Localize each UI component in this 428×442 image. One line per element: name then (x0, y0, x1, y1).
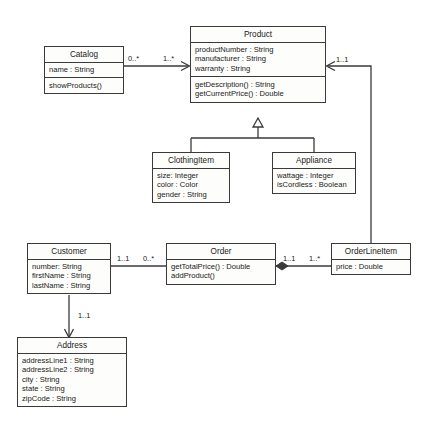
operations-compartment-catalog: showProducts() (45, 78, 123, 93)
attribute: price : Double (336, 262, 406, 271)
class-name-customer: Customer (28, 244, 110, 260)
class-name-orderlineitem: OrderLineItem (332, 244, 410, 260)
operation: showProducts() (49, 81, 119, 90)
class-box-clothingitem[interactable]: ClothingItem size: Integer color : Color… (152, 152, 230, 203)
attribute: city : String (22, 375, 122, 384)
multiplicity-label-order-orderlineitem-order-end: 1..1 (283, 255, 295, 263)
attribute: name : String (49, 65, 119, 74)
class-box-catalog[interactable]: Catalog name : String showProducts() (44, 46, 124, 94)
operation: addProduct() (171, 271, 271, 280)
class-box-appliance[interactable]: Appliance wattage : Integer isCordless :… (272, 152, 356, 194)
class-name-catalog: Catalog (45, 47, 123, 63)
attribute: wattage : Integer (277, 171, 351, 180)
operation: getDescription() : String (195, 80, 321, 89)
edge-order-orderlineitem (276, 262, 331, 270)
class-name-address: Address (18, 338, 126, 354)
attribute: size: Integer (157, 171, 225, 180)
attributes-compartment-customer: number: String firstName : String lastNa… (28, 260, 110, 294)
operation: getTotalPrice() : Double (171, 262, 271, 271)
attribute: number: String (32, 262, 106, 271)
class-box-order[interactable]: Order getTotalPrice() : Double addProduc… (166, 243, 276, 285)
attribute: warranty : String (195, 64, 321, 73)
attribute: lastName : String (32, 281, 106, 290)
operation: getCurrentPrice() : Double (195, 89, 321, 98)
multiplicity-label-catalog-end: 0..* (128, 55, 139, 63)
class-box-customer[interactable]: Customer number: String firstName : Stri… (27, 243, 111, 294)
attributes-compartment-orderlineitem: price : Double (332, 260, 410, 275)
class-name-clothingitem: ClothingItem (153, 153, 229, 169)
attribute: zipCode : String (22, 394, 122, 403)
multiplicity-label-product-end: 1..* (163, 55, 174, 63)
attribute: gender : String (157, 190, 225, 199)
operations-compartment-order: getTotalPrice() : Double addProduct() (167, 260, 275, 284)
attribute: manufacturer : String (195, 54, 321, 63)
attributes-compartment-address: addressLine1 : String addressLine2 : Str… (18, 354, 126, 407)
multiplicity-label-customer-order-customer-end: 1..1 (117, 255, 129, 263)
attribute: addressLine2 : String (22, 365, 122, 374)
multiplicity-label-customer-address: 1..1 (78, 312, 90, 320)
attribute: color : Color (157, 180, 225, 189)
attributes-compartment-product: productNumber : String manufacturer : St… (191, 43, 325, 78)
class-box-product[interactable]: Product productNumber : String manufactu… (190, 26, 326, 103)
operations-compartment-product: getDescription() : String getCurrentPric… (191, 77, 325, 101)
attributes-compartment-catalog: name : String (45, 63, 123, 79)
attribute: state : String (22, 384, 122, 393)
class-box-orderlineitem[interactable]: OrderLineItem price : Double (331, 243, 411, 275)
class-name-product: Product (191, 27, 325, 43)
class-box-address[interactable]: Address addressLine1 : String addressLin… (17, 337, 127, 407)
attribute: firstName : String (32, 271, 106, 280)
attribute: productNumber : String (195, 45, 321, 54)
uml-class-diagram: Catalog name : String showProducts() Pro… (0, 0, 428, 442)
attribute: addressLine1 : String (22, 356, 122, 365)
multiplicity-label-product-orderlineitem: 1..1 (336, 56, 348, 64)
attributes-compartment-appliance: wattage : Integer isCordless : Boolean (273, 169, 355, 193)
class-name-order: Order (167, 244, 275, 260)
class-name-appliance: Appliance (273, 153, 355, 169)
multiplicity-label-customer-order-order-end: 0..* (143, 255, 154, 263)
edge-customer-address (65, 295, 74, 338)
attribute: isCordless : Boolean (277, 180, 351, 189)
edge-product-generalization (191, 118, 314, 152)
multiplicity-label-order-orderlineitem-item-end: 1..* (309, 255, 320, 263)
attributes-compartment-clothingitem: size: Integer color : Color gender : Str… (153, 169, 229, 203)
